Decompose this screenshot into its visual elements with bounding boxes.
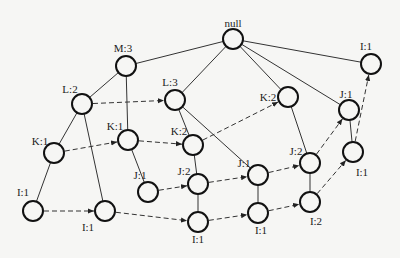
node-label: I:1 <box>356 166 368 178</box>
node-link-arrow-K1l-K1m <box>65 142 117 151</box>
node-link-arrow-K1m-K2m <box>139 141 182 144</box>
tree-node-J1m <box>138 182 158 202</box>
tree-edge-null-M3 <box>136 41 224 63</box>
fp-tree-diagram: nullM:3L:2L:3K:2I:1J:1K:1K:2K:1J:1J:2J:1… <box>0 0 400 258</box>
tree-node-I1ml <box>95 201 115 221</box>
node-label: I:1 <box>82 221 94 233</box>
node-link-arrow-I1bm-I1brm <box>209 215 247 221</box>
node-label: J:2 <box>290 145 303 157</box>
node-label: K:1 <box>32 135 49 147</box>
node-label: I:1 <box>360 40 372 52</box>
tree-edge-null-I1tr <box>243 41 361 62</box>
node-link-arrow-J1rm-J2r <box>269 165 300 172</box>
tree-edge-null-K2r <box>240 46 281 89</box>
tree-node-M3 <box>116 56 136 76</box>
tree-node-J1rm <box>248 165 268 185</box>
node-label: I:1 <box>17 186 29 198</box>
tree-node-I1tr <box>361 54 381 74</box>
tree-nodes <box>23 29 381 232</box>
node-label: I:2 <box>310 215 322 227</box>
node-label: J:1 <box>134 169 147 181</box>
tree-edge-K1l-I1l <box>36 162 50 201</box>
tree-node-J1r <box>339 100 359 120</box>
node-label: M:3 <box>114 42 133 54</box>
tree-edge-L2-K1l <box>59 113 77 145</box>
tree-node-K2m <box>183 135 203 155</box>
tree-edge-L2-I1ml <box>84 114 103 201</box>
node-label: null <box>224 17 241 29</box>
node-label: I:1 <box>192 233 204 245</box>
node-label: K:2 <box>171 125 188 137</box>
tree-node-L3 <box>165 90 185 110</box>
tree-edge-null-L3 <box>182 46 226 93</box>
node-link-arrow-J1m-J2m <box>159 186 187 191</box>
tree-node-I1bm <box>188 212 208 232</box>
tree-node-I1r <box>343 142 363 162</box>
node-link-arrow-J2m-J1rm <box>209 177 247 183</box>
tree-node-J2m <box>188 174 208 194</box>
node-label: K:1 <box>107 120 124 132</box>
tree-node-null <box>223 29 243 49</box>
node-label: J:1 <box>238 157 251 169</box>
tree-edge-J1r-I1r <box>350 120 352 142</box>
node-label: J:2 <box>178 165 191 177</box>
tree-node-I1l <box>23 201 43 221</box>
diagram-canvas: nullM:3L:2L:3K:2I:1J:1K:1K:2K:1J:1J:2J:1… <box>0 0 400 258</box>
node-link-arrow-I1ml-I1bm <box>116 212 187 220</box>
tree-node-I2 <box>300 192 320 212</box>
node-link-arrow-J2r-J1r <box>317 119 343 154</box>
node-label: J:1 <box>340 88 353 100</box>
node-link-arrow-K2m-K2r <box>203 102 278 140</box>
node-link-arrow-I1brm-I2 <box>269 204 299 210</box>
node-label: L:3 <box>162 76 178 88</box>
tree-edge-M3-L2 <box>90 73 119 98</box>
node-label: K:2 <box>260 91 277 103</box>
node-link-arrow-L2-L3 <box>93 100 164 103</box>
tree-edge-K2m-J2m <box>194 155 196 174</box>
tree-edge-M3-K1m <box>126 76 127 130</box>
node-link-arrow-I2-I1r <box>317 160 346 193</box>
tree-node-J2r <box>300 153 320 173</box>
tree-node-K2r <box>278 87 298 107</box>
node-label: I:1 <box>255 224 267 236</box>
tree-node-K1m <box>118 130 138 150</box>
tree-node-I1brm <box>248 203 268 223</box>
node-label: L:2 <box>62 83 77 95</box>
tree-node-L2 <box>72 94 92 114</box>
